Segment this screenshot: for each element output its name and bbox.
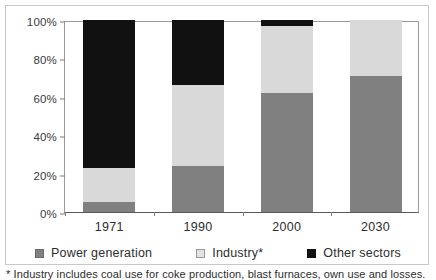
bar-segment-industry-2000 [261, 26, 313, 93]
chart-frame: 100%80%60%40%20%0%1971199020002030 Power… [5, 5, 429, 265]
chart-footnote: * Industry includes coal use for coke pr… [6, 268, 430, 280]
legend-item-power-generation: Power generation [35, 246, 152, 260]
legend-item-label: Other sectors [323, 246, 401, 260]
black-swatch [307, 249, 316, 258]
bar-segment-other-sectors-2000 [261, 20, 313, 26]
x-axis-label-1990: 1990 [184, 220, 213, 234]
bar-segment-industry-1971 [83, 168, 135, 203]
x-axis-label-1971: 1971 [95, 220, 124, 234]
legend-item-other-sectors: Other sectors [307, 246, 401, 260]
bar-segment-other-sectors-1990 [172, 20, 224, 85]
plot-area-wrapper: 100%80%60%40%20%0%1971199020002030 [6, 6, 430, 238]
y-axis-tick-label: 80% [33, 54, 65, 66]
bar-segment-power-generation-1990 [172, 166, 224, 212]
x-axis-tick-mark [243, 212, 244, 216]
y-axis-tick-label: 20% [33, 170, 65, 182]
y-axis-tick-label: 60% [33, 93, 65, 105]
bar-segment-power-generation-1971 [83, 202, 135, 212]
chart-legend: Power generationIndustry*Other sectors [6, 242, 430, 264]
bar-stack-1990 [172, 20, 224, 212]
x-axis-tick-mark [65, 212, 66, 216]
bar-stack-2000 [261, 20, 313, 212]
x-axis-label-2000: 2000 [272, 220, 301, 234]
bar-stack-2030 [350, 20, 402, 212]
dark-gray-swatch [35, 249, 44, 258]
y-axis-tick-label: 100% [27, 16, 65, 28]
legend-item-label: Industry* [212, 246, 263, 260]
bar-segment-industry-1990 [172, 85, 224, 166]
bar-segment-industry-2030 [350, 20, 402, 76]
y-axis-tick-label: 40% [33, 131, 65, 143]
legend-item-industry: Industry* [196, 246, 263, 260]
x-axis-tick-mark [331, 212, 332, 216]
bar-segment-power-generation-2000 [261, 93, 313, 212]
y-axis-tick-label: 0% [40, 208, 65, 220]
bar-segment-other-sectors-1971 [83, 20, 135, 168]
light-gray-swatch [196, 249, 205, 258]
bar-stack-1971 [83, 20, 135, 212]
x-axis-tick-mark [154, 212, 155, 216]
plot-area: 100%80%60%40%20%0%1971199020002030 [64, 21, 419, 213]
legend-item-label: Power generation [51, 246, 152, 260]
bar-segment-power-generation-2030 [350, 76, 402, 212]
x-axis-label-2030: 2030 [361, 220, 390, 234]
